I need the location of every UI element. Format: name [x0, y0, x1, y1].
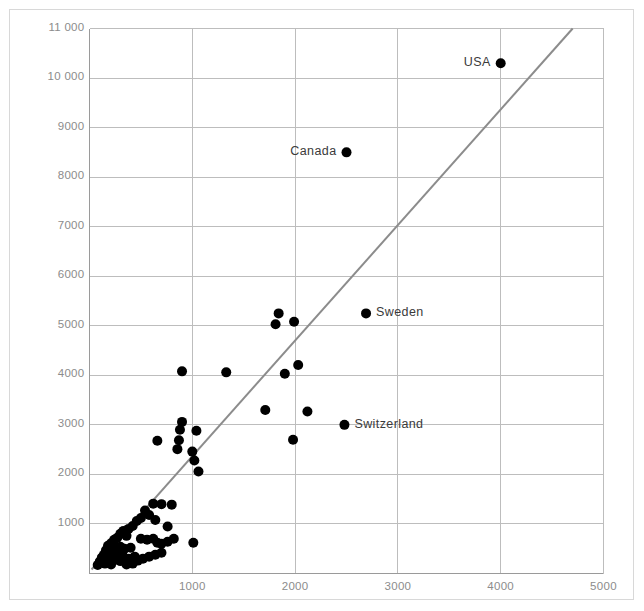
data-point — [163, 521, 173, 531]
data-point — [288, 435, 298, 445]
y-tick-label: 1000 — [58, 516, 85, 528]
data-point — [496, 58, 506, 68]
x-tick-label: 4000 — [471, 580, 531, 592]
data-point — [152, 436, 162, 446]
y-tick-label: 4000 — [58, 367, 85, 379]
chart-figure: 10002000300040005000600070008000900010 0… — [0, 0, 644, 611]
gridlines-group — [90, 29, 604, 574]
data-points-group — [93, 58, 506, 570]
y-tick-label: 10 000 — [48, 70, 85, 82]
data-point — [177, 366, 187, 376]
x-tick-label: 1000 — [162, 580, 222, 592]
data-point — [106, 560, 116, 570]
data-point — [289, 317, 299, 327]
y-tick-label: 9000 — [58, 120, 85, 132]
data-point — [174, 435, 184, 445]
x-tick-label: 2000 — [265, 580, 325, 592]
data-point — [274, 308, 284, 318]
y-tick-label: 6000 — [58, 268, 85, 280]
point-label-switzerland: Switzerland — [354, 417, 423, 431]
data-point — [271, 319, 281, 329]
data-point — [221, 367, 231, 377]
point-label-usa: USA — [464, 55, 491, 69]
point-label-sweden: Sweden — [376, 305, 424, 319]
data-point — [156, 548, 166, 558]
data-point — [260, 405, 270, 415]
data-point — [193, 466, 203, 476]
data-point — [175, 425, 185, 435]
y-tick-label: 7000 — [58, 219, 85, 231]
y-tick-label: 5000 — [58, 318, 85, 330]
y-tick-label: 11 000 — [48, 21, 84, 33]
data-point — [126, 543, 136, 553]
data-point — [188, 538, 198, 548]
y-tick-label: 3000 — [58, 417, 85, 429]
data-point — [302, 406, 312, 416]
data-point — [122, 531, 132, 541]
data-point — [339, 420, 349, 430]
data-point — [169, 534, 179, 544]
y-tick-label: 2000 — [58, 466, 85, 478]
data-point — [280, 369, 290, 379]
data-point — [93, 560, 103, 570]
data-point — [293, 360, 303, 370]
data-point — [187, 447, 197, 457]
data-point — [122, 560, 132, 570]
data-point — [167, 500, 177, 510]
scatter-plot-svg — [0, 0, 644, 611]
data-point — [189, 456, 199, 466]
data-point — [156, 499, 166, 509]
data-point — [361, 308, 371, 318]
x-tick-label: 3000 — [368, 580, 428, 592]
axis-lines-group — [90, 29, 604, 574]
point-label-canada: Canada — [290, 144, 336, 158]
data-point — [342, 147, 352, 157]
data-point — [172, 444, 182, 454]
x-tick-label: 5000 — [574, 580, 634, 592]
y-tick-label: 8000 — [58, 169, 85, 181]
data-point — [150, 515, 160, 525]
data-point — [191, 426, 201, 436]
